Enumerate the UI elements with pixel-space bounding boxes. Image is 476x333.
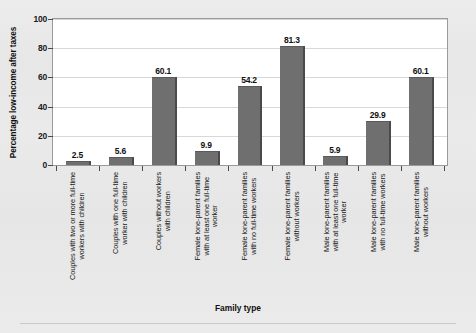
x-axis-label-line: Couples with two or more full-time	[69, 172, 78, 280]
bar[interactable]: 5.6	[109, 157, 134, 165]
chart-page: Percentage low-income after taxes 020406…	[0, 0, 476, 333]
bar-value-label: 5.9	[329, 145, 340, 155]
x-axis-label: Female lone-parent familieswith at least…	[194, 172, 220, 261]
bar[interactable]: 29.9	[366, 121, 391, 165]
x-axis-label-line: with children	[164, 172, 173, 250]
bar[interactable]: 9.9	[195, 151, 220, 165]
bar-slot: 29.9	[357, 19, 400, 165]
x-axis-tick-mark	[142, 166, 143, 171]
bar-series: 2.55.660.19.954.281.35.929.960.1	[53, 19, 447, 165]
x-axis-label-line: workers with children	[78, 172, 87, 280]
x-axis-label: Male lone-parent familieswithout workers	[414, 172, 431, 252]
bar-value-label: 60.1	[155, 66, 171, 76]
bar-value-label: 9.9	[201, 140, 212, 150]
x-axis-tick-mark	[185, 166, 186, 171]
bar-slot: 81.3	[271, 19, 314, 165]
bar-value-label: 54.2	[241, 75, 257, 85]
bar-value-label: 60.1	[413, 66, 429, 76]
bar[interactable]: 60.1	[152, 77, 177, 165]
bar-slot: 60.1	[400, 19, 443, 165]
x-axis-label-slot: Female lone-parent familieswith no full-…	[228, 172, 271, 298]
x-axis-title: Family type	[0, 303, 476, 313]
bar-slot: 5.6	[100, 19, 143, 165]
bar[interactable]: 5.9	[323, 156, 348, 165]
bar[interactable]: 2.5	[66, 161, 91, 165]
x-axis-tick-mark	[228, 166, 229, 171]
x-axis-labels: Couples with two or more full-timeworker…	[52, 172, 448, 298]
x-axis-label: Female lone-parent familieswith no full-…	[241, 172, 258, 261]
x-axis-label: Male lone-parent familieswith no full-ti…	[371, 172, 388, 252]
x-axis-label-line: worker	[341, 172, 350, 252]
x-axis-label-line: with no full-time workers	[379, 172, 388, 252]
x-axis-tick-mark	[358, 166, 359, 171]
x-axis-label-slot: Couples with two or more full-timeworker…	[56, 172, 99, 298]
bar-slot: 54.2	[229, 19, 272, 165]
x-axis-label-slot: Male lone-parent familieswithout workers	[401, 172, 444, 298]
bottom-divider	[20, 323, 456, 324]
x-axis-tick-mark	[272, 166, 273, 171]
x-axis-label-slot: Male lone-parent familieswith no full-ti…	[358, 172, 401, 298]
bar[interactable]: 60.1	[409, 77, 434, 165]
plot-area: 020406080100 2.55.660.19.954.281.35.929.…	[52, 18, 448, 166]
bar[interactable]: 54.2	[238, 86, 263, 165]
bar-slot: 5.9	[314, 19, 357, 165]
x-axis-label-slot: Female lone-parent familieswithout worke…	[272, 172, 315, 298]
x-axis-label-slot: Couples with one full-timeworker with ch…	[99, 172, 142, 298]
bar-slot: 2.5	[57, 19, 100, 165]
bar-value-label: 81.3	[284, 35, 300, 45]
x-axis-label-line: worker	[211, 172, 220, 261]
bar-value-label: 29.9	[370, 110, 386, 120]
y-axis-title: Percentage low-income after taxes	[8, 18, 20, 166]
bar-slot: 60.1	[143, 19, 186, 165]
x-axis-tick-mark	[401, 166, 402, 171]
x-axis-label-line: worker with children	[121, 172, 130, 254]
x-axis-tick-mark	[315, 166, 316, 171]
bar-value-label: 5.6	[115, 146, 126, 156]
x-axis-label: Couples with one full-timeworker with ch…	[112, 172, 129, 254]
x-axis-label-line: without workers	[422, 172, 431, 252]
x-axis-tick-mark	[99, 166, 100, 171]
x-axis-label-slot: Male lone-parent familieswith at least o…	[315, 172, 358, 298]
x-axis-label-line: Couples with one full-time	[112, 172, 121, 254]
y-axis-title-label: Percentage low-income after taxes	[10, 26, 19, 157]
x-axis-label: Male lone-parent familieswith at least o…	[323, 172, 349, 252]
x-axis-label-slot: Couples without workerswith children	[142, 172, 185, 298]
x-axis-label: Couples without workerswith children	[155, 172, 172, 250]
bar-slot: 9.9	[186, 19, 229, 165]
bar-value-label: 2.5	[72, 150, 83, 160]
x-axis-label: Couples with two or more full-timeworker…	[69, 172, 86, 280]
x-axis-label-line: without workers	[293, 172, 302, 261]
x-axis-ticks	[52, 166, 448, 171]
x-axis-tick-mark	[444, 166, 445, 171]
x-axis-tick-mark	[56, 166, 57, 171]
bar[interactable]: 81.3	[280, 46, 305, 165]
x-axis-label-line: with no full-time workers	[250, 172, 259, 261]
x-axis-label: Female lone-parent familieswithout worke…	[285, 172, 302, 261]
x-axis-label-slot: Female lone-parent familieswith at least…	[185, 172, 228, 298]
